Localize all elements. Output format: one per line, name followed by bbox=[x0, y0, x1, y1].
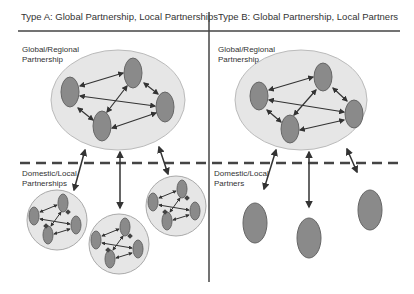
panel-b-global-partnership bbox=[235, 50, 367, 150]
panel-a-global-partnership bbox=[51, 50, 185, 150]
panel-b-global-local-links bbox=[264, 149, 357, 207]
partnership-diagram: Type A: Global Partnership, Local Partne… bbox=[0, 0, 414, 294]
panel-a-local-cluster-1 bbox=[27, 190, 87, 250]
panel-a-local-cluster-2 bbox=[89, 214, 149, 274]
panel-a-local-cluster-3 bbox=[146, 176, 206, 236]
panel-a-local-label-1: Domestic/Local bbox=[22, 169, 77, 178]
panel-a-local-label-2: Partnerships bbox=[22, 179, 67, 188]
panel-b-title: Type B: Global Partnership, Local Partne… bbox=[218, 11, 398, 22]
panel-b-local-partner-1 bbox=[243, 203, 267, 243]
panel-b-global-label-1: Global/Regional bbox=[218, 45, 275, 54]
panel-b-global-label-2: Partnership bbox=[218, 55, 259, 64]
panel-b-local-label-2: Partners bbox=[214, 179, 244, 188]
panel-a-title: Type A: Global Partnership, Local Partne… bbox=[21, 11, 218, 22]
panel-a-global-label-1: Global/Regional bbox=[22, 45, 79, 54]
panel-b-local-partner-2 bbox=[297, 218, 321, 258]
panel-b-local-partner-3 bbox=[358, 190, 382, 230]
panel-b-local-label-1: Domestic/Local bbox=[214, 169, 269, 178]
panel-a-global-label-2: Partnership bbox=[22, 55, 63, 64]
